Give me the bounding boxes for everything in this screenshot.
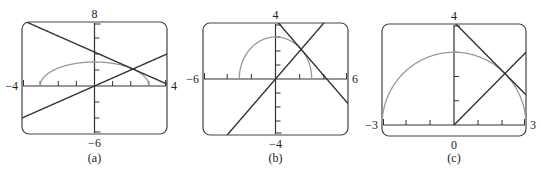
- x-min-label: −3: [365, 119, 378, 131]
- y-min-label: 0: [451, 139, 457, 151]
- x-max-label: 3: [530, 119, 536, 131]
- graph-svg: [0, 0, 541, 169]
- line-y-equals-x: [454, 52, 526, 125]
- y-max-label: 4: [451, 10, 457, 22]
- panel-caption: (c): [447, 152, 460, 164]
- line-descending: [454, 22, 526, 95]
